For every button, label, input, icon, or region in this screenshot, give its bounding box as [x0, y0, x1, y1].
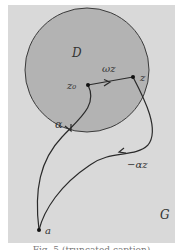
- diagram-figure: D z₀ ωz z α −αz G a: [0, 0, 183, 250]
- point-a: [37, 228, 41, 232]
- label-d: D: [71, 46, 82, 60]
- figure-caption: Fig. 5 (truncated caption): [0, 243, 183, 250]
- point-z0: [86, 83, 90, 87]
- label-g: G: [160, 208, 170, 222]
- point-z: [131, 75, 135, 79]
- label-omega-z: ωz: [102, 63, 116, 74]
- label-z0: z₀: [66, 80, 76, 91]
- label-minus-alpha-z: −αz: [127, 159, 148, 170]
- label-a: a: [45, 225, 51, 236]
- disk-d: [25, 8, 149, 132]
- label-z: z: [139, 72, 146, 83]
- label-alpha: α: [55, 118, 63, 131]
